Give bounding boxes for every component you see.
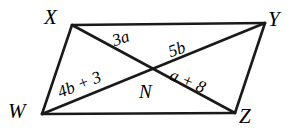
edge-WX — [42, 25, 72, 114]
geometry-figure-parallelogram: X Y Z W N 3a 5b 4b + 3 a + 8 — [0, 0, 294, 140]
edge-XY — [72, 23, 265, 25]
diagonal-WY — [42, 23, 265, 114]
vertex-label-Y: Y — [268, 9, 280, 30]
edge-YZ — [235, 23, 265, 113]
edge-ZW — [42, 113, 235, 114]
vertex-label-Z: Z — [239, 106, 251, 127]
vertex-label-X: X — [44, 7, 57, 28]
vertex-label-W: W — [8, 101, 26, 122]
intersection-label-N: N — [139, 82, 152, 101]
